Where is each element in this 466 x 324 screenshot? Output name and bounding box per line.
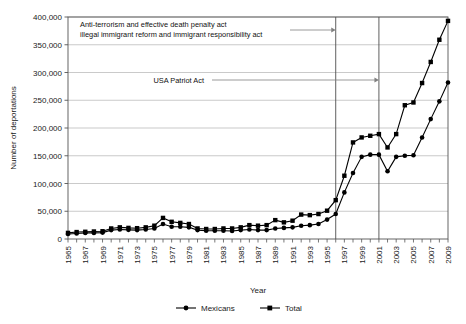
y-tick-label: 150,000 — [33, 152, 62, 161]
point-mexicans-1990 — [282, 226, 287, 231]
chart-background — [0, 0, 466, 324]
point-total-2004 — [403, 103, 407, 107]
deportations-line-chart: 050,000100,000150,000200,000250,000300,0… — [0, 0, 466, 324]
point-total-1996 — [334, 198, 338, 202]
point-total-1985 — [239, 225, 243, 229]
point-mexicans-2004 — [403, 153, 408, 158]
point-mexicans-2007 — [428, 117, 433, 122]
point-total-1997 — [342, 174, 346, 178]
point-mexicans-1995 — [325, 217, 330, 222]
x-tick-label: 2001 — [375, 245, 384, 263]
point-total-2003 — [394, 132, 398, 136]
point-total-2007 — [429, 60, 433, 64]
annotation-anti-terrorism-line2: illegal immigrant reform and immigrant r… — [80, 30, 262, 39]
point-total-1979 — [187, 222, 191, 226]
x-tick-label: 1977 — [168, 245, 177, 263]
point-total-1989 — [273, 218, 277, 222]
point-mexicans-2002 — [385, 169, 390, 174]
point-mexicans-2008 — [437, 99, 442, 104]
y-tick-label: 300,000 — [33, 69, 62, 78]
x-tick-label: 1983 — [219, 245, 228, 263]
y-tick-label: 0 — [58, 235, 63, 244]
x-axis-tick-labels: 1965196719691971197319751977197919811983… — [64, 245, 453, 263]
point-total-1995 — [325, 208, 329, 212]
point-total-1971 — [118, 225, 122, 229]
point-total-1986 — [247, 223, 251, 227]
y-tick-label: 50,000 — [38, 207, 63, 216]
point-total-2000 — [368, 134, 372, 138]
point-mexicans-1992 — [299, 223, 304, 228]
point-total-1999 — [359, 135, 363, 139]
point-total-1987 — [256, 223, 260, 227]
point-total-1981 — [204, 227, 208, 231]
legend-label-mexicans: Mexicans — [201, 304, 235, 313]
x-tick-label: 1985 — [237, 245, 246, 263]
point-mexicans-1998 — [351, 171, 356, 176]
point-mexicans-1988 — [264, 228, 269, 233]
point-total-1978 — [178, 221, 182, 225]
annotation-usa-patriot-line1: USA Patriot Act — [153, 76, 204, 85]
point-mexicans-1976 — [161, 222, 166, 227]
point-mexicans-1987 — [256, 228, 261, 233]
x-tick-label: 2007 — [427, 245, 436, 263]
x-tick-label: 1989 — [271, 245, 280, 263]
y-tick-label: 250,000 — [33, 96, 62, 105]
point-total-2008 — [437, 38, 441, 42]
point-total-1984 — [230, 226, 234, 230]
point-total-1998 — [351, 140, 355, 144]
y-axis-tick-labels: 050,000100,000150,000200,000250,000300,0… — [33, 13, 62, 244]
deportations-chart-figure: 050,000100,000150,000200,000250,000300,0… — [0, 0, 466, 324]
point-total-1972 — [126, 226, 130, 230]
point-mexicans-2009 — [446, 80, 451, 85]
point-mexicans-1978 — [178, 224, 183, 229]
point-total-1974 — [144, 225, 148, 229]
point-mexicans-1986 — [247, 227, 252, 232]
point-total-1975 — [152, 223, 156, 227]
x-tick-label: 1969 — [99, 245, 108, 263]
x-tick-label: 2005 — [409, 245, 418, 263]
point-mexicans-2001 — [377, 152, 382, 157]
annotation-anti-terrorism-line1: Anti-terrorism and effective death penal… — [80, 20, 227, 29]
point-mexicans-1996 — [333, 212, 338, 217]
point-total-1970 — [109, 226, 113, 230]
point-total-1967 — [83, 230, 87, 234]
point-mexicans-1997 — [342, 190, 347, 195]
x-tick-label: 1981 — [202, 245, 211, 263]
point-mexicans-2005 — [411, 153, 416, 158]
y-tick-label: 350,000 — [33, 41, 62, 50]
point-total-1977 — [169, 220, 173, 224]
point-total-2006 — [420, 81, 424, 85]
x-tick-label: 1979 — [185, 245, 194, 263]
point-total-1966 — [74, 230, 78, 234]
point-total-1965 — [66, 231, 70, 235]
point-total-2001 — [377, 132, 381, 136]
point-mexicans-1999 — [359, 155, 364, 160]
point-total-1968 — [92, 229, 96, 233]
x-tick-label: 1987 — [254, 245, 263, 263]
x-tick-label: 1991 — [289, 245, 298, 263]
point-total-1969 — [100, 229, 104, 233]
point-total-2002 — [385, 145, 389, 149]
point-total-1976 — [161, 216, 165, 220]
point-total-2009 — [446, 19, 450, 23]
point-total-2005 — [411, 100, 415, 104]
point-mexicans-1993 — [308, 223, 313, 228]
point-total-1988 — [264, 223, 268, 227]
x-tick-label: 1995 — [323, 245, 332, 263]
x-tick-label: 1993 — [306, 245, 315, 263]
y-tick-label: 200,000 — [33, 124, 62, 133]
point-total-1994 — [316, 212, 320, 216]
y-tick-label: 400,000 — [33, 13, 62, 22]
x-tick-label: 1997 — [340, 245, 349, 263]
y-axis-title: Number of deportations — [9, 86, 18, 170]
x-tick-label: 2009 — [444, 245, 453, 263]
point-total-1993 — [308, 213, 312, 217]
point-mexicans-2003 — [394, 155, 399, 160]
legend-marker-total — [267, 306, 272, 311]
x-axis-title: Year — [250, 286, 267, 295]
x-tick-label: 1999 — [358, 245, 367, 263]
point-mexicans-1977 — [169, 224, 174, 229]
point-mexicans-1994 — [316, 222, 321, 227]
point-mexicans-1991 — [290, 225, 295, 230]
point-total-1982 — [213, 227, 217, 231]
